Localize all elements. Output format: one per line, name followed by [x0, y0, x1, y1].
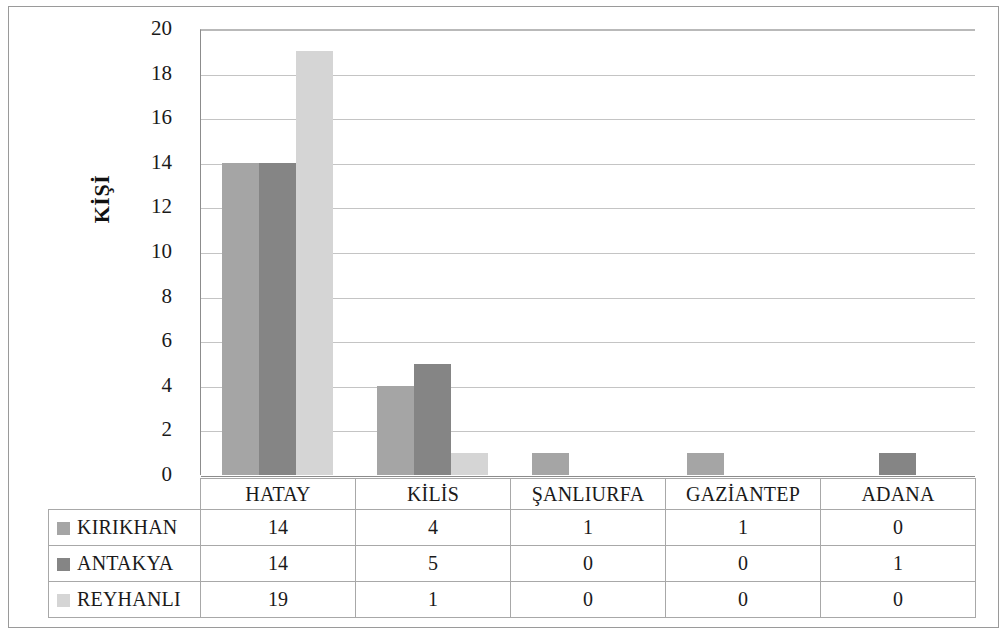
table-column-header-gazi̇antep: GAZİANTEP	[666, 479, 821, 510]
y-tick-label-16: 16	[2, 107, 172, 128]
table-column-header-şanliurfa: ŞANLIURFA	[511, 479, 666, 510]
table-column-header-hatay: HATAY	[201, 479, 356, 510]
legend-label: KIRIKHAN	[77, 516, 177, 538]
legend-swatch-icon	[57, 522, 70, 535]
table-row: ANTAKYA145001	[49, 546, 976, 582]
gridline-0	[201, 476, 975, 477]
legend-item-kirikhan: KIRIKHAN	[49, 510, 201, 546]
table-cell-reyhanli-ki̇li̇s: 1	[356, 582, 511, 618]
legend-item-reyhanli: REYHANLI	[49, 582, 201, 618]
y-tick-label-18: 18	[2, 63, 172, 84]
y-tick-label-12: 12	[2, 196, 172, 217]
table-cell-antakya-gazi̇antep: 0	[666, 546, 821, 582]
table-row: KIRIKHAN144110	[49, 510, 976, 546]
bar-antakya-ki̇li̇s	[414, 364, 451, 476]
bar-kirikhan-hatay	[222, 163, 259, 475]
table-column-header-ki̇li̇s: KİLİS	[356, 479, 511, 510]
table-cell-antakya-ki̇li̇s: 5	[356, 546, 511, 582]
bar-group-ki̇li̇s	[355, 29, 510, 475]
table-cell-kirikhan-adana: 0	[821, 510, 976, 546]
table-cell-kirikhan-ki̇li̇s: 4	[356, 510, 511, 546]
y-tick-label-14: 14	[2, 152, 172, 173]
legend-item-antakya: ANTAKYA	[49, 546, 201, 582]
bar-group-adana	[820, 29, 975, 475]
bar-antakya-adana	[879, 453, 916, 475]
chart-figure: KİŞİ 20181614121086420 HATAYKİLİSŞANLIUR…	[0, 0, 1007, 636]
table-cell-antakya-hatay: 14	[201, 546, 356, 582]
bar-kirikhan-ki̇li̇s	[377, 386, 414, 475]
table-row: REYHANLI191000	[49, 582, 976, 618]
y-tick-label-2: 2	[2, 419, 172, 440]
bar-kirikhan-gazi̇antep	[687, 453, 724, 475]
table-cell-antakya-şanliurfa: 0	[511, 546, 666, 582]
y-tick-label-6: 6	[2, 330, 172, 351]
legend-label: REYHANLI	[77, 588, 181, 610]
bar-group-gazi̇antep	[665, 29, 820, 475]
y-tick-label-20: 20	[2, 18, 172, 39]
y-axis-tick-labels: 20181614121086420	[0, 29, 200, 475]
table-header-row: HATAYKİLİSŞANLIURFAGAZİANTEPADANA	[49, 479, 976, 510]
y-tick-label-4: 4	[2, 375, 172, 396]
bar-reyhanli-ki̇li̇s	[451, 453, 488, 475]
bar-group-hatay	[200, 29, 355, 475]
y-tick-label-8: 8	[2, 286, 172, 307]
table-cell-kirikhan-hatay: 14	[201, 510, 356, 546]
table-cell-reyhanli-şanliurfa: 0	[511, 582, 666, 618]
legend-swatch-icon	[57, 594, 70, 607]
legend-label: ANTAKYA	[77, 552, 173, 574]
bar-reyhanli-hatay	[296, 51, 333, 475]
table-cell-antakya-adana: 1	[821, 546, 976, 582]
table-cell-reyhanli-gazi̇antep: 0	[666, 582, 821, 618]
table-corner-cell	[49, 479, 201, 510]
bar-kirikhan-şanliurfa	[532, 453, 569, 475]
bar-antakya-hatay	[259, 163, 296, 475]
bar-group-şanliurfa	[510, 29, 665, 475]
y-tick-label-10: 10	[2, 241, 172, 262]
bar-series-layer	[200, 29, 975, 475]
table-cell-kirikhan-gazi̇antep: 1	[666, 510, 821, 546]
table-cell-kirikhan-şanliurfa: 1	[511, 510, 666, 546]
legend-swatch-icon	[57, 558, 70, 571]
table-column-header-adana: ADANA	[821, 479, 976, 510]
table-cell-reyhanli-hatay: 19	[201, 582, 356, 618]
data-table: HATAYKİLİSŞANLIURFAGAZİANTEPADANAKIRIKHA…	[48, 478, 976, 618]
table-cell-reyhanli-adana: 0	[821, 582, 976, 618]
